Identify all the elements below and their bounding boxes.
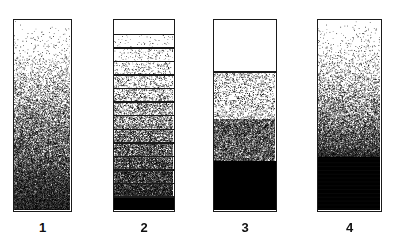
zone-solid-black xyxy=(214,161,276,210)
band-4 xyxy=(114,61,174,75)
column-group-2: 2 xyxy=(113,19,175,240)
band-3 xyxy=(114,47,174,61)
column-label-1: 1 xyxy=(13,221,72,234)
column-label-4: 4 xyxy=(317,221,382,234)
band-stipple-9 xyxy=(114,129,173,143)
band-stipple-6 xyxy=(114,88,173,102)
stipple-field-4 xyxy=(318,20,380,210)
column-label-2: 2 xyxy=(113,221,175,234)
band-divider-10 xyxy=(114,156,174,157)
column-group-1: 1 xyxy=(13,19,72,240)
band-5 xyxy=(114,74,174,88)
zone-divider-1 xyxy=(214,71,276,72)
zone-clear xyxy=(214,20,276,71)
band-11 xyxy=(114,156,174,170)
band-divider-7 xyxy=(114,115,174,116)
zone-stipple-light-stipple xyxy=(214,71,275,119)
band-divider-12 xyxy=(114,183,174,184)
band-divider-6 xyxy=(114,101,174,102)
band-divider-4 xyxy=(114,74,174,75)
band-stipple-12 xyxy=(114,169,173,183)
band-divider-1 xyxy=(114,34,174,35)
sediment-column-4 xyxy=(317,19,382,212)
band-2 xyxy=(114,34,174,48)
band-divider-13 xyxy=(114,196,174,197)
band-stipple-8 xyxy=(114,115,173,129)
column-label-3: 3 xyxy=(213,221,277,234)
sediment-column-1 xyxy=(13,19,72,212)
band-divider-8 xyxy=(114,129,174,130)
sediment-column-2 xyxy=(113,19,175,212)
band-stipple-4 xyxy=(114,61,173,75)
band-divider-5 xyxy=(114,88,174,89)
band-1 xyxy=(114,20,174,34)
band-14 xyxy=(114,196,174,210)
zone-light-stipple xyxy=(214,71,276,119)
figure-canvas: 1234 xyxy=(0,0,394,240)
band-12 xyxy=(114,169,174,183)
band-stipple-10 xyxy=(114,142,173,156)
band-divider-2 xyxy=(114,47,174,48)
band-divider-9 xyxy=(114,142,174,143)
band-7 xyxy=(114,101,174,115)
band-stipple-11 xyxy=(114,156,173,170)
band-stipple-3 xyxy=(114,47,173,61)
band-divider-11 xyxy=(114,169,174,170)
band-10 xyxy=(114,142,174,156)
band-stipple-2 xyxy=(114,34,173,48)
band-6 xyxy=(114,88,174,102)
band-8 xyxy=(114,115,174,129)
column-group-4: 4 xyxy=(317,19,382,240)
zone-stipple-dense-stipple xyxy=(214,119,275,161)
band-9 xyxy=(114,129,174,143)
sediment-column-3 xyxy=(213,19,277,212)
band-stipple-13 xyxy=(114,183,173,197)
band-stipple-5 xyxy=(114,74,173,88)
band-stipple-7 xyxy=(114,101,173,115)
stipple-field-1 xyxy=(14,20,70,210)
band-divider-3 xyxy=(114,61,174,62)
band-13 xyxy=(114,183,174,197)
column-group-3: 3 xyxy=(213,19,277,240)
zone-dense-stipple xyxy=(214,119,276,161)
